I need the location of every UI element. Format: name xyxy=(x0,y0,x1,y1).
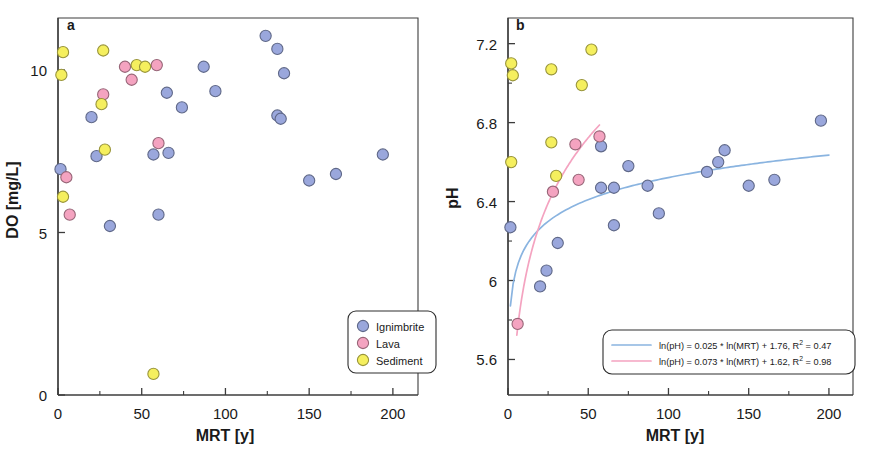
legend-label-sediment: Sediment xyxy=(376,355,422,367)
data-point-ignimbrite xyxy=(769,174,780,185)
data-point-ignimbrite xyxy=(608,182,619,193)
data-point-sediment xyxy=(546,64,557,75)
panel-b-xtick-label: 0 xyxy=(504,405,512,422)
data-point-ignimbrite xyxy=(153,209,164,220)
data-point-lava xyxy=(547,186,558,197)
data-point-lava xyxy=(153,138,164,149)
legend-swatch-sediment xyxy=(357,354,368,365)
panel-b-plot: 0501001502005.666.46.87.2 b MRT [y] pH l… xyxy=(440,0,870,449)
data-point-ignimbrite xyxy=(176,102,187,113)
data-point-ignimbrite xyxy=(275,113,286,124)
data-point-ignimbrite xyxy=(552,237,563,248)
data-point-lava xyxy=(119,61,130,72)
panel-b-xtick-label: 100 xyxy=(656,405,681,422)
data-point-sediment xyxy=(56,69,67,80)
legend-swatch-lava xyxy=(357,337,368,348)
data-point-ignimbrite xyxy=(815,115,826,126)
legend-label-ignimbrite: Ignimbrite xyxy=(376,321,424,333)
data-point-ignimbrite xyxy=(701,166,712,177)
data-point-ignimbrite xyxy=(260,30,271,41)
legend-equation-1: ln(pH) = 0.025 * ln(MRT) + 1.76, R2 = 0.… xyxy=(659,339,831,351)
data-point-ignimbrite xyxy=(623,160,634,171)
data-point-sediment xyxy=(99,144,110,155)
data-point-lava xyxy=(126,74,137,85)
legend-label-lava: Lava xyxy=(376,338,401,350)
data-point-ignimbrite xyxy=(541,265,552,276)
data-point-lava xyxy=(573,174,584,185)
data-point-sediment xyxy=(139,61,150,72)
panel-a-xtick-label: 200 xyxy=(380,405,405,422)
data-point-lava xyxy=(151,60,162,71)
legend-equation-2: ln(pH) = 0.073 * ln(MRT) + 1.62, R2 = 0.… xyxy=(659,355,831,367)
panel-b-xtick-label: 50 xyxy=(580,405,597,422)
data-point-ignimbrite xyxy=(272,43,283,54)
panel-a-xtick-label: 150 xyxy=(297,405,322,422)
data-point-ignimbrite xyxy=(505,222,516,233)
data-point-sediment xyxy=(551,170,562,181)
panel-a-letter: a xyxy=(67,17,75,33)
panel-a-ytick-label: 10 xyxy=(30,62,47,79)
data-point-ignimbrite xyxy=(161,87,172,98)
panel-a-legend: IgnimbriteLavaSediment xyxy=(348,311,436,373)
panel-b-datapoints xyxy=(505,44,827,330)
data-point-ignimbrite xyxy=(719,145,730,156)
panel-b-xtick-label: 150 xyxy=(736,405,761,422)
panel-a-plot: 0501001502000510 a MRT [y] DO [mg/L] Ign… xyxy=(0,0,440,449)
data-point-sediment xyxy=(586,44,597,55)
data-point-sediment xyxy=(148,368,159,379)
data-point-ignimbrite xyxy=(330,168,341,179)
data-point-lava xyxy=(64,209,75,220)
data-point-sediment xyxy=(506,58,517,69)
panel-b-ytick-label: 7.2 xyxy=(476,36,497,53)
panel-b-fitlines xyxy=(510,125,829,335)
data-point-ignimbrite xyxy=(278,68,289,79)
data-point-sediment xyxy=(57,191,68,202)
data-point-ignimbrite xyxy=(86,112,97,123)
panel-a: 0501001502000510 a MRT [y] DO [mg/L] Ign… xyxy=(0,0,440,449)
data-point-lava xyxy=(570,139,581,150)
data-point-ignimbrite xyxy=(653,208,664,219)
data-point-lava xyxy=(512,318,523,329)
panel-a-xaxis-title: MRT [y] xyxy=(196,427,255,444)
panel-b: 0501001502005.666.46.87.2 b MRT [y] pH l… xyxy=(440,0,870,449)
figure-container: 0501001502000510 a MRT [y] DO [mg/L] Ign… xyxy=(0,0,870,449)
panel-a-yaxis-title: DO [mg/L] xyxy=(4,161,21,238)
data-point-ignimbrite xyxy=(148,149,159,160)
panel-b-ytick-label: 6.8 xyxy=(476,115,497,132)
data-point-ignimbrite xyxy=(595,141,606,152)
panel-b-xtick-label: 200 xyxy=(816,405,841,422)
legend-swatch-ignimbrite xyxy=(357,320,368,331)
panel-a-xtick-label: 0 xyxy=(54,405,62,422)
data-point-ignimbrite xyxy=(642,180,653,191)
panel-b-ytick-label: 5.6 xyxy=(476,351,497,368)
data-point-ignimbrite xyxy=(104,220,115,231)
data-point-sediment xyxy=(507,70,518,81)
panel-b-yaxis-title: pH xyxy=(444,187,461,208)
data-point-ignimbrite xyxy=(377,149,388,160)
panel-b-xaxis-title: MRT [y] xyxy=(646,427,705,444)
data-point-ignimbrite xyxy=(608,220,619,231)
panel-a-xtick-label: 50 xyxy=(133,405,150,422)
data-point-sediment xyxy=(98,45,109,56)
data-point-sediment xyxy=(96,99,107,110)
panel-b-legend: ln(pH) = 0.025 * ln(MRT) + 1.76, R2 = 0.… xyxy=(603,330,855,374)
panel-b-ytick-label: 6.4 xyxy=(476,194,497,211)
data-point-ignimbrite xyxy=(304,175,315,186)
panel-b-letter: b xyxy=(516,17,525,33)
data-point-ignimbrite xyxy=(743,180,754,191)
data-point-ignimbrite xyxy=(163,147,174,158)
panel-a-ytick-label: 0 xyxy=(39,387,47,404)
data-point-ignimbrite xyxy=(210,86,221,97)
data-point-ignimbrite xyxy=(534,281,545,292)
data-point-sediment xyxy=(576,80,587,91)
panel-b-legend-box xyxy=(603,330,855,374)
data-point-ignimbrite xyxy=(713,156,724,167)
panel-a-datapoints xyxy=(55,30,389,379)
fit-line-lava-fit xyxy=(517,125,600,335)
data-point-ignimbrite xyxy=(595,182,606,193)
data-point-sediment xyxy=(506,156,517,167)
data-point-sediment xyxy=(546,137,557,148)
data-point-lava xyxy=(594,131,605,142)
data-point-ignimbrite xyxy=(198,61,209,72)
data-point-sediment xyxy=(57,47,68,58)
